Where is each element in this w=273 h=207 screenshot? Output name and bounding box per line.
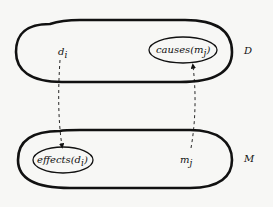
edge-d-to-effects (59, 60, 62, 146)
node-m-j: mj (180, 154, 192, 168)
set-M-label: M (244, 153, 254, 164)
node-effects: effects(di) (37, 154, 88, 168)
set-D-label: D (244, 45, 252, 56)
node-d-i: di (58, 46, 67, 60)
diagram-canvas (0, 0, 273, 207)
edge-m-to-causes (191, 66, 195, 148)
node-causes: causes(mj) (156, 44, 210, 58)
